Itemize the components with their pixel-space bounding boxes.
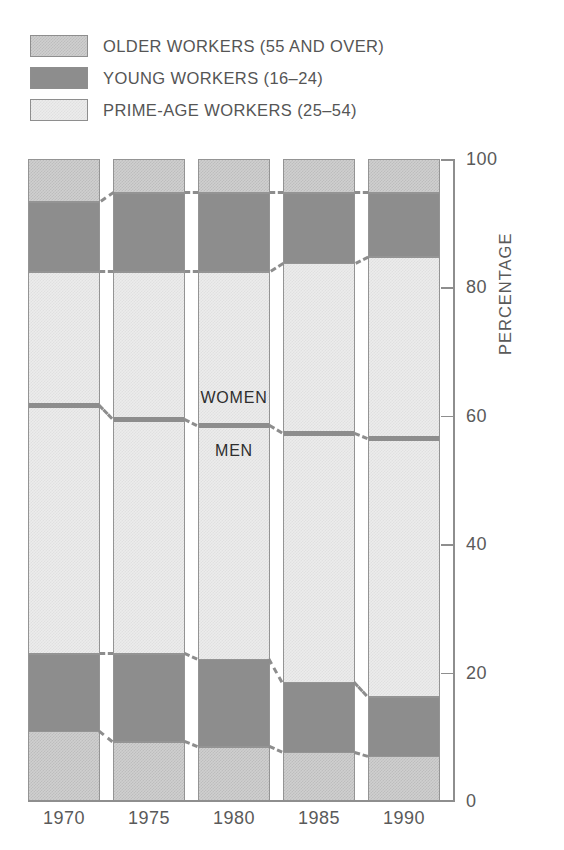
segment-divider-1990-2 — [369, 256, 439, 258]
segment-divider-1970-0 — [29, 731, 99, 733]
y-tick-label-100: 100 — [466, 149, 498, 170]
segment-divider-1985-2 — [284, 263, 354, 265]
x-tick-label-1975: 1975 — [113, 808, 185, 829]
segment-young-top-1970 — [29, 201, 99, 271]
segment-young-bottom-1990 — [369, 696, 439, 756]
annotation-men: MEN — [198, 442, 270, 460]
x-tick-label-1985: 1985 — [283, 808, 355, 829]
y-tick-40 — [441, 544, 453, 546]
x-axis-line — [28, 800, 454, 802]
connector-young-bottom-0 — [100, 652, 113, 655]
segment-divider-1990-3 — [369, 192, 439, 194]
y-tick-20 — [441, 673, 453, 675]
segment-young-top-1990 — [369, 192, 439, 256]
segment-young-top-1985 — [284, 192, 354, 263]
segment-divider-1985-0 — [284, 752, 354, 754]
men-women-divider-1975 — [114, 417, 184, 422]
segment-divider-1975-3 — [114, 192, 184, 194]
bar-1985[interactable] — [283, 159, 355, 801]
segment-young-top-1980 — [199, 192, 269, 271]
segment-young-bottom-1975 — [114, 653, 184, 741]
segment-older-bottom-1985 — [284, 752, 354, 802]
stacked-bar-chart: WOMEN MEN 020406080100 PERCENTAGE 197019… — [0, 0, 564, 850]
segment-divider-1970-3 — [29, 201, 99, 203]
segment-prime-age-1975 — [114, 271, 184, 653]
segment-divider-1980-2 — [199, 271, 269, 273]
y-tick-label-20: 20 — [466, 662, 487, 683]
connector-prime-top-0 — [100, 270, 113, 273]
segment-older-bottom-1990 — [369, 756, 439, 802]
bar-1970[interactable] — [28, 159, 100, 801]
y-tick-60 — [441, 416, 453, 418]
segment-older-top-1970 — [29, 160, 99, 201]
bar-1990[interactable] — [368, 159, 440, 801]
segment-divider-1980-1 — [199, 659, 269, 661]
men-women-divider-1980 — [199, 423, 269, 428]
connector-young-top-1 — [185, 191, 198, 194]
segment-divider-1975-0 — [114, 741, 184, 743]
bar-1975[interactable] — [113, 159, 185, 801]
annotation-women: WOMEN — [198, 389, 270, 407]
segment-older-top-1980 — [199, 160, 269, 192]
segment-divider-1975-1 — [114, 653, 184, 655]
segment-older-top-1990 — [369, 160, 439, 192]
men-women-divider-1970 — [29, 403, 99, 408]
x-tick-label-1980: 1980 — [198, 808, 270, 829]
segment-older-top-1975 — [114, 160, 184, 192]
segment-divider-1980-3 — [199, 192, 269, 194]
connector-young-top-3 — [355, 191, 368, 194]
segment-divider-1990-0 — [369, 756, 439, 758]
segment-divider-1975-2 — [114, 271, 184, 273]
connector-young-bottom-3 — [353, 681, 368, 697]
connector-older-bottom-3 — [354, 751, 368, 758]
connector-gender-2 — [268, 424, 283, 434]
connector-gender-3 — [354, 432, 368, 440]
men-women-divider-1990 — [369, 436, 439, 441]
segment-divider-1990-1 — [369, 696, 439, 698]
segment-older-bottom-1970 — [29, 731, 99, 802]
y-tick-label-60: 60 — [466, 405, 487, 426]
bar-1980[interactable] — [198, 159, 270, 801]
connector-young-top-2 — [270, 191, 283, 194]
segment-divider-1985-1 — [284, 682, 354, 684]
connector-older-bottom-1 — [184, 740, 198, 748]
connector-gender-1 — [184, 418, 198, 427]
connector-gender-0 — [98, 404, 113, 420]
x-tick-label-1990: 1990 — [368, 808, 440, 829]
segment-young-bottom-1970 — [29, 653, 99, 731]
segment-young-bottom-1980 — [199, 659, 269, 746]
segment-young-bottom-1985 — [284, 682, 354, 752]
segment-prime-age-1970 — [29, 271, 99, 653]
segment-divider-1985-3 — [284, 192, 354, 194]
connector-prime-top-1 — [185, 270, 198, 273]
y-tick-100 — [441, 159, 453, 161]
segment-older-top-1985 — [284, 160, 354, 192]
segment-prime-age-1990 — [369, 256, 439, 696]
y-tick-80 — [441, 287, 453, 289]
segment-young-top-1975 — [114, 192, 184, 271]
connector-older-bottom-2 — [269, 745, 283, 754]
y-axis-line — [453, 159, 455, 802]
men-women-divider-1985 — [284, 431, 354, 436]
connector-older-bottom-0 — [98, 730, 113, 743]
y-tick-label-0: 0 — [466, 791, 477, 812]
segment-older-bottom-1980 — [199, 746, 269, 802]
y-axis-title: PERCENTAGE — [496, 233, 515, 355]
segment-prime-age-1980 — [199, 271, 269, 659]
segment-older-bottom-1975 — [114, 741, 184, 802]
connector-young-bottom-1 — [184, 652, 198, 661]
x-tick-label-1970: 1970 — [28, 808, 100, 829]
segment-divider-1970-2 — [29, 271, 99, 273]
segment-divider-1970-1 — [29, 653, 99, 655]
segment-divider-1980-0 — [199, 746, 269, 748]
y-tick-label-40: 40 — [466, 534, 487, 555]
segment-prime-age-1985 — [284, 263, 354, 682]
y-tick-label-80: 80 — [466, 277, 487, 298]
